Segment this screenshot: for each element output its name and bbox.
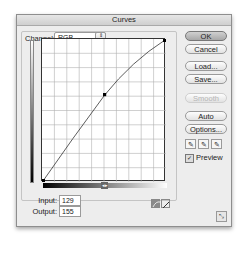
output-label: Output: <box>27 207 57 216</box>
preview-checkbox[interactable]: ✓ <box>185 154 194 163</box>
curves-dialog: Curves Channel: RGB ⇕ <box>16 14 232 227</box>
save-button[interactable]: Save... <box>185 74 227 84</box>
white-eyedropper-icon[interactable]: ✎ <box>211 139 222 149</box>
curve-graph[interactable] <box>41 38 165 181</box>
smooth-button[interactable]: Smooth <box>185 93 227 103</box>
curve-grid-svg <box>42 39 166 182</box>
black-eyedropper-icon[interactable]: ✎ <box>185 139 196 149</box>
input-gradient-bar[interactable]: ◂▸ <box>43 183 167 188</box>
expand-icon[interactable]: ⤡ <box>216 211 227 222</box>
options-button[interactable]: Options... <box>185 124 227 134</box>
pencil-tool-icon[interactable] <box>161 199 170 208</box>
title-bar[interactable]: Curves <box>17 15 231 26</box>
load-button[interactable]: Load... <box>185 61 227 71</box>
input-field[interactable]: 129 <box>59 195 81 206</box>
ok-button[interactable]: OK <box>185 31 227 41</box>
output-gradient-bar <box>30 40 34 183</box>
curve-tool-icon[interactable] <box>151 199 160 208</box>
gray-eyedropper-icon[interactable]: ✎ <box>198 139 209 149</box>
output-field[interactable]: 155 <box>59 206 81 217</box>
auto-button[interactable]: Auto <box>185 111 227 121</box>
gradient-toggle-icon[interactable]: ◂▸ <box>101 182 108 189</box>
input-label: Input: <box>27 196 57 205</box>
preview-checkbox-row[interactable]: ✓Preview <box>185 153 223 163</box>
cancel-button[interactable]: Cancel <box>185 44 227 54</box>
preview-label: Preview <box>196 153 223 162</box>
